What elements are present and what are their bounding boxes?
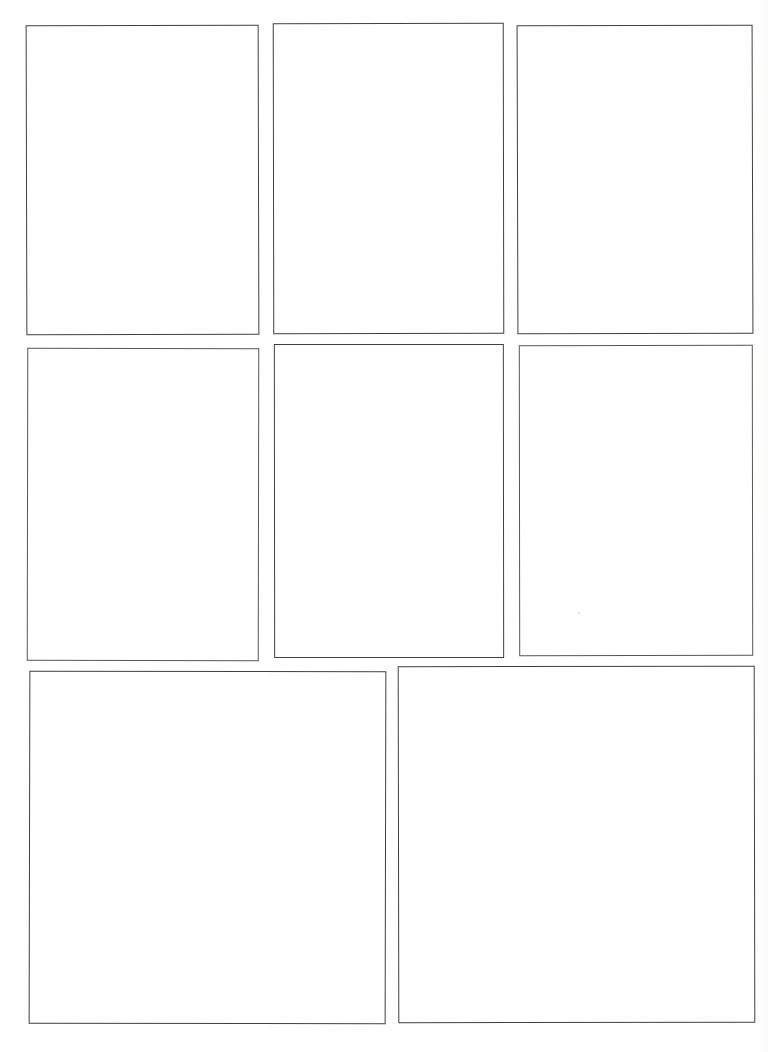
comic-panel-row2-col3[interactable] xyxy=(519,345,753,656)
paper-edge-shading xyxy=(758,0,768,1052)
comic-panel-row1-col2[interactable] xyxy=(273,23,505,334)
scan-speck xyxy=(578,612,580,614)
comic-panel-row3-col1[interactable] xyxy=(29,671,387,1025)
comic-panel-row3-col2[interactable] xyxy=(398,666,756,1024)
comic-panel-row2-col2[interactable] xyxy=(274,344,504,658)
comic-panel-row2-col1[interactable] xyxy=(27,348,260,661)
comic-panel-row1-col3[interactable] xyxy=(517,25,754,335)
comic-panel-row1-col1[interactable] xyxy=(26,25,260,336)
comic-page xyxy=(0,0,768,1052)
